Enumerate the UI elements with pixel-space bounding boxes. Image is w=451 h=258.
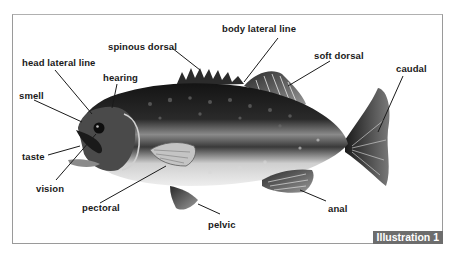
label-spinous-dorsal: spinous dorsal	[108, 42, 177, 52]
caudal-fin	[345, 88, 390, 186]
leader-soft-dorsal	[288, 61, 330, 86]
label-body-lateral-line: body lateral line	[222, 24, 296, 34]
label-vision: vision	[36, 184, 64, 194]
label-soft-dorsal: soft dorsal	[314, 51, 364, 61]
leader-taste	[48, 146, 80, 155]
illustration-badge: Illustration 1	[373, 231, 443, 244]
eye	[94, 123, 105, 134]
pelvic-fin	[170, 186, 198, 210]
label-head-lateral-line: head lateral line	[22, 58, 96, 68]
label-pelvic: pelvic	[208, 220, 236, 230]
label-caudal: caudal	[396, 64, 427, 74]
label-pectoral: pectoral	[82, 203, 120, 213]
leader-head-lateral-line	[55, 70, 92, 114]
label-anal: anal	[328, 204, 347, 214]
label-hearing: hearing	[103, 73, 138, 83]
leader-anal	[300, 190, 326, 201]
leader-smell	[34, 100, 82, 122]
label-smell: smell	[19, 91, 44, 101]
label-taste: taste	[22, 152, 45, 162]
leader-pelvic	[198, 204, 220, 214]
